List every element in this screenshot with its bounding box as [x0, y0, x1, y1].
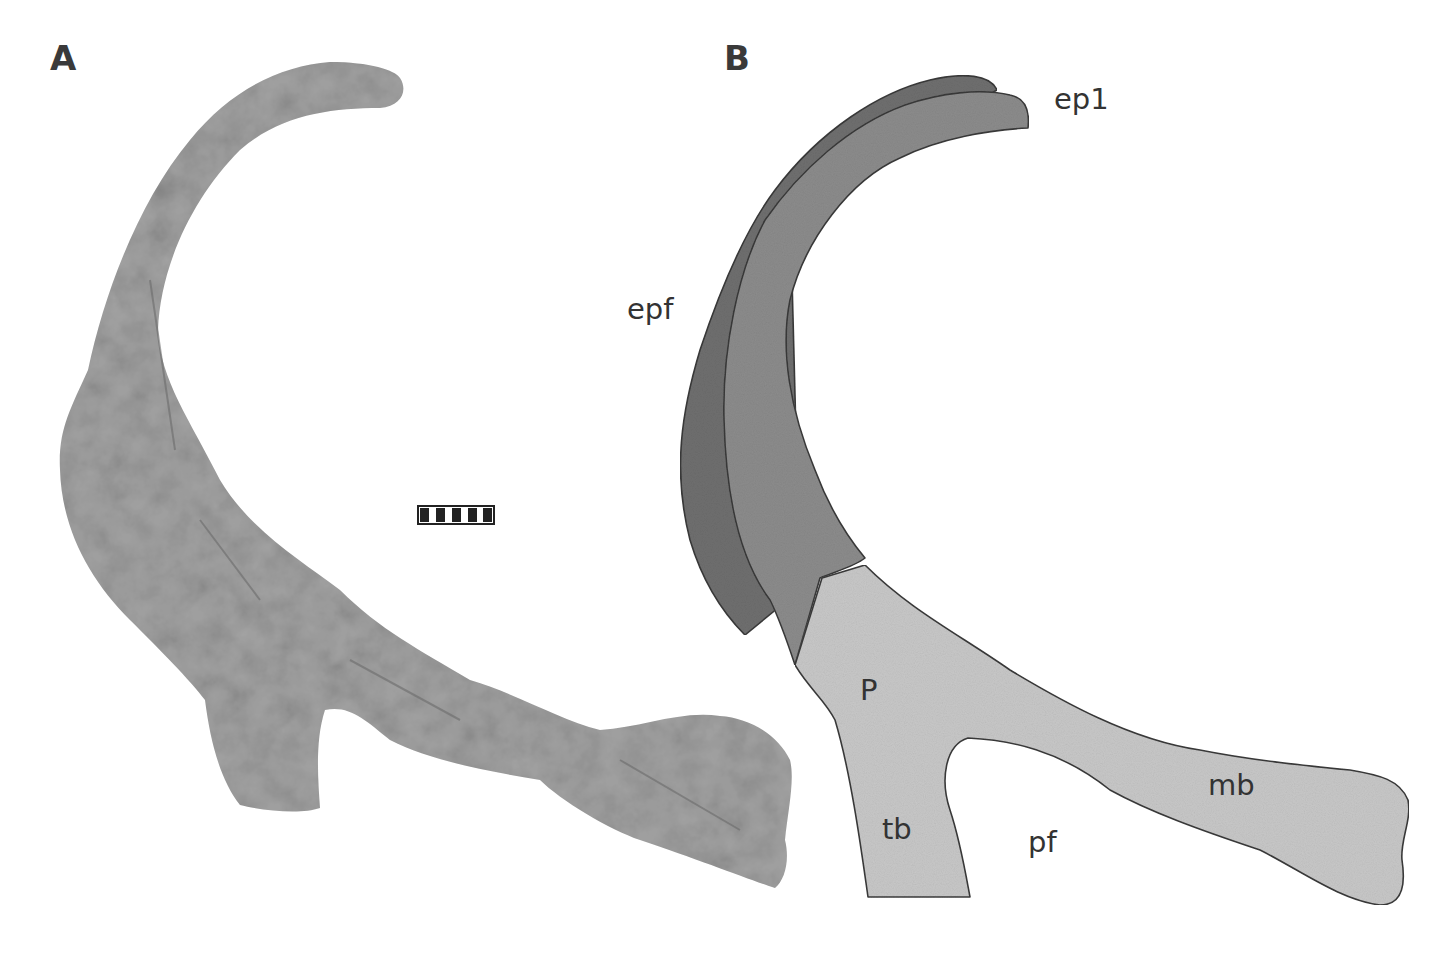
figure-canvas	[0, 0, 1448, 955]
label-ep1: ep1	[1054, 82, 1109, 116]
label-P: P	[860, 673, 878, 707]
label-tb: tb	[882, 812, 912, 846]
panel-letter-b: B	[724, 38, 750, 78]
label-pf: pf	[1028, 825, 1057, 859]
panel-letter-a: A	[50, 38, 76, 78]
label-epf: epf	[627, 292, 673, 326]
scale-bar	[418, 506, 494, 524]
label-mb: mb	[1208, 768, 1255, 802]
region-P	[795, 565, 1409, 905]
